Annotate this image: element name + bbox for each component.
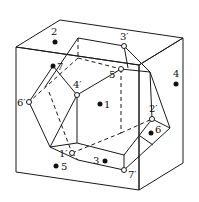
face-point-4: [174, 82, 179, 87]
face-point-label-7: 7: [57, 61, 63, 72]
edge-7p-right: [124, 128, 170, 170]
vertex-point-4p: [75, 93, 80, 98]
vertex-point-label-7p: 7′: [128, 169, 137, 180]
face-point-label-2: 2: [51, 26, 57, 37]
edge-5p-right: [121, 69, 150, 72]
vertex-point-3p: [122, 44, 127, 49]
face-point-label-4: 4: [173, 68, 179, 79]
vertex-point-label-4p: 4′: [73, 79, 82, 90]
vertex-point-6p: [27, 100, 32, 105]
vertex-point-label-6p: 6′: [17, 97, 26, 108]
vertex-point-label-1p: 1′: [59, 148, 68, 159]
hidden-edge-to-2p: [121, 119, 152, 133]
face-point-5: [54, 164, 59, 169]
front-lower-edge: [50, 72, 152, 155]
vertex-point-2p: [150, 117, 155, 122]
vertex-point-7p: [122, 168, 127, 173]
front-left-edge: [29, 95, 77, 147]
vertex-point-label-3p: 3′: [120, 31, 129, 42]
face-point-label-6: 6: [155, 124, 161, 135]
face-point-label-1: 1: [104, 99, 110, 110]
vertex-point-label-5p: 5′: [109, 69, 118, 80]
vertex-point-label-2p: 2′: [149, 103, 158, 114]
face-point-7: [51, 64, 56, 69]
face-point-label-3: 3: [93, 155, 99, 166]
face-point-3: [103, 159, 108, 164]
vertex-point-1p: [70, 151, 75, 156]
dodecahedron-in-cube-diagram: 1 2 3 4 5 6 7 1′ 2′ 3′ 4′ 5′: [0, 0, 199, 202]
edge-face6-bottom: [140, 136, 153, 145]
face-point-1: [98, 102, 103, 107]
face-point-6: [149, 131, 154, 136]
cube-top-face: [16, 20, 183, 65]
diagram-canvas: 1 2 3 4 5 6 7 1′ 2′ 3′ 4′ 5′: [0, 0, 199, 202]
vertex-point-5p: [119, 67, 124, 72]
face-point-2: [53, 40, 58, 45]
face-point-label-5: 5: [61, 161, 67, 172]
cube-right-face: [139, 38, 183, 190]
hidden-edge-1p-right: [72, 133, 121, 153]
